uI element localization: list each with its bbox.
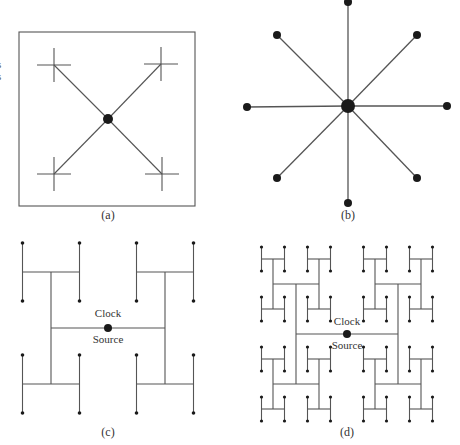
sink-node: [283, 345, 286, 348]
sink-node: [431, 419, 434, 422]
sink-node: [306, 269, 309, 272]
diagonal-wire: [54, 119, 108, 174]
sink-node: [21, 241, 25, 245]
sink-node: [21, 353, 25, 357]
sink-node: [283, 395, 286, 398]
sink-node: [21, 299, 25, 303]
clock-source-node: [343, 330, 351, 338]
panel-caption-b: (b): [341, 208, 355, 222]
sink-node: [431, 245, 434, 248]
spoke-wire: [348, 35, 417, 106]
sink-node: [306, 319, 309, 322]
panel-caption-c: (c): [101, 425, 114, 439]
sink-node: [329, 319, 332, 322]
sink-node: [431, 269, 434, 272]
panel-a-x-tree: (a): [19, 32, 195, 222]
sink-node: [362, 269, 365, 272]
sink-node: [135, 299, 139, 303]
diagonal-wire: [108, 119, 162, 174]
sink-node: [306, 419, 309, 422]
sink-node: [362, 369, 365, 372]
sink-node: [329, 419, 332, 422]
panel-c-h-tree: ClockSource(c): [21, 241, 196, 439]
sink-node: [408, 419, 411, 422]
leaf-node: [344, 199, 352, 207]
sink-node: [21, 411, 25, 415]
clock-label: Clock: [334, 315, 361, 327]
sink-node: [192, 353, 196, 357]
sink-node: [408, 369, 411, 372]
leaf-node: [443, 102, 451, 110]
sink-node: [385, 395, 388, 398]
sink-node: [385, 269, 388, 272]
leaf-node: [273, 174, 281, 182]
panel-caption-a: (a): [101, 208, 114, 222]
sink-node: [260, 245, 263, 248]
panel-b-star-tree: (b): [243, 0, 451, 222]
sink-node: [408, 295, 411, 298]
sink-node: [260, 369, 263, 372]
sink-node: [283, 295, 286, 298]
sink-node: [362, 245, 365, 248]
spoke-wire: [277, 35, 348, 106]
diagonal-wire: [54, 65, 108, 119]
sink-node: [283, 419, 286, 422]
sink-node: [385, 419, 388, 422]
sink-node: [385, 345, 388, 348]
sink-node: [192, 241, 196, 245]
sink-node: [192, 299, 196, 303]
sink-node: [329, 269, 332, 272]
clock-source-node: [103, 114, 113, 124]
spoke-wire: [277, 106, 348, 178]
sink-node: [431, 395, 434, 398]
sink-node: [408, 345, 411, 348]
sink-node: [78, 299, 82, 303]
sink-node: [260, 395, 263, 398]
sink-node: [385, 319, 388, 322]
sink-node: [408, 269, 411, 272]
sink-node: [135, 353, 139, 357]
sink-node: [431, 295, 434, 298]
sink-node: [385, 295, 388, 298]
leaf-node: [273, 31, 281, 39]
sink-node: [260, 419, 263, 422]
sink-node: [78, 353, 82, 357]
clock-source-node: [104, 324, 112, 332]
leaf-node: [243, 103, 251, 111]
sink-node: [78, 241, 82, 245]
sink-node: [431, 369, 434, 372]
sink-node: [362, 419, 365, 422]
sink-node: [362, 345, 365, 348]
panel-d-h-tree-deep: ClockSource(d): [260, 245, 434, 439]
sink-node: [306, 245, 309, 248]
sink-node: [135, 241, 139, 245]
sink-node: [283, 245, 286, 248]
panel-caption-d: (d): [340, 425, 354, 439]
sink-node: [192, 411, 196, 415]
spoke-wire: [348, 106, 417, 178]
sink-node: [135, 411, 139, 415]
spoke-wire: [247, 106, 348, 107]
sink-node: [408, 395, 411, 398]
sink-node: [283, 369, 286, 372]
sink-node: [431, 345, 434, 348]
sink-node: [306, 295, 309, 298]
sink-node: [283, 319, 286, 322]
sink-node: [260, 319, 263, 322]
sink-node: [306, 395, 309, 398]
diagonal-wire: [108, 64, 161, 119]
sink-node: [408, 319, 411, 322]
leaf-node: [344, 0, 352, 6]
sink-node: [329, 369, 332, 372]
clock-label: Clock: [95, 307, 122, 319]
sink-node: [329, 395, 332, 398]
sink-node: [362, 295, 365, 298]
leaf-node: [413, 174, 421, 182]
sink-node: [385, 369, 388, 372]
sink-node: [78, 411, 82, 415]
source-label: Source: [332, 339, 363, 351]
sink-node: [260, 345, 263, 348]
sink-node: [362, 395, 365, 398]
sink-node: [283, 269, 286, 272]
sink-node: [260, 295, 263, 298]
